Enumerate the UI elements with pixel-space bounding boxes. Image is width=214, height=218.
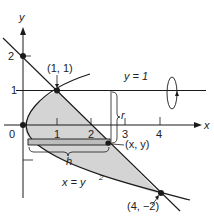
x-tick-label-4: 4 — [156, 128, 162, 140]
line-y1-label: y = 1 — [123, 70, 148, 82]
height-label: h — [66, 155, 72, 167]
representative-strip — [28, 139, 110, 145]
y-axis-arrow-icon — [20, 27, 26, 35]
point-label-4-neg2: (4, −2) — [127, 200, 159, 212]
y-tick-label-2: 2 — [8, 50, 14, 62]
radius-brace — [112, 92, 120, 143]
point-0-2 — [20, 53, 26, 59]
x-axis-arrow-icon — [194, 122, 202, 128]
y-axis-label: y — [18, 11, 26, 23]
origin-label: 0 — [9, 128, 15, 140]
rotation-ellipse-icon — [167, 77, 177, 109]
diagram-figure: y x 0 1 2 3 4 1 2 (1, 1) (x, y) (4, −2) … — [0, 0, 214, 218]
x-axis-label: x — [203, 119, 210, 131]
point-label-1-1: (1, 1) — [47, 62, 73, 74]
x-tick-label-1: 1 — [54, 128, 60, 140]
rotation-arrow-icon — [175, 91, 179, 96]
point-1-1 — [54, 88, 60, 94]
x-tick-label-2: 2 — [88, 128, 94, 140]
point-x-y — [105, 140, 110, 145]
y-tick-label-1: 1 — [11, 84, 17, 96]
parabola-exponent: 2 — [98, 173, 104, 182]
pointer-x-y — [112, 144, 124, 145]
diagram-canvas: y x 0 1 2 3 4 1 2 (1, 1) (x, y) (4, −2) … — [0, 0, 214, 218]
point-origin — [20, 122, 26, 128]
parabola-label: x = y — [61, 176, 87, 188]
point-label-x-y: (x, y) — [125, 138, 149, 150]
